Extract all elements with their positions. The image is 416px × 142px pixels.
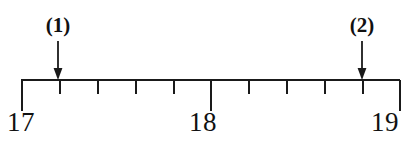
arrow-down-icon — [354, 41, 370, 81]
tick-9 — [362, 80, 364, 94]
tick-8 — [324, 80, 326, 94]
tick-1 — [59, 80, 61, 94]
tick-6 — [248, 80, 250, 94]
pointer-1-label: (1) — [34, 13, 82, 37]
axis-label-middle: 18 — [189, 106, 217, 138]
tick-4 — [173, 80, 175, 94]
tick-7 — [286, 80, 288, 94]
number-line-figure: (1) (2) 17 18 19 — [0, 0, 416, 142]
tick-2 — [97, 80, 99, 94]
axis-label-start: 17 — [7, 106, 35, 138]
arrow-down-icon — [50, 41, 66, 81]
tick-10 — [399, 80, 401, 111]
tick-3 — [135, 80, 137, 94]
axis-label-end: 19 — [371, 106, 399, 138]
pointer-2-label: (2) — [338, 13, 386, 37]
